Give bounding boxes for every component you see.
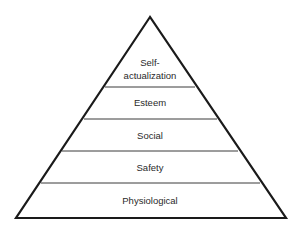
level-esteem: Esteem <box>134 97 166 108</box>
level-safety: Safety <box>137 162 164 173</box>
level-self-actualization-line1: Self- <box>140 57 160 68</box>
level-social: Social <box>137 130 163 141</box>
level-self-actualization-line2: actualization <box>124 70 177 81</box>
pyramid-diagram: Self- actualization Esteem Social Safety… <box>0 0 302 228</box>
pyramid-outline <box>16 17 286 218</box>
level-physiological: Physiological <box>122 195 177 206</box>
